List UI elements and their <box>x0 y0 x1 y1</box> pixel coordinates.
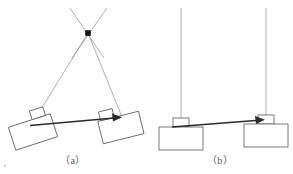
block-right <box>96 103 144 144</box>
scan-artifact-speck <box>4 165 6 167</box>
figure-root: （a） （b） <box>0 0 293 174</box>
diagram-canvas <box>0 0 293 174</box>
apex-pivot-marker <box>85 30 91 36</box>
panel-a <box>6 8 144 150</box>
block-right-b-body <box>244 124 288 147</box>
cord-right <box>88 33 122 117</box>
block-right-b <box>244 115 288 147</box>
panel-b <box>159 8 288 150</box>
block-left <box>6 105 58 150</box>
block-left-b-body <box>159 127 203 150</box>
block-left-b <box>159 118 203 150</box>
